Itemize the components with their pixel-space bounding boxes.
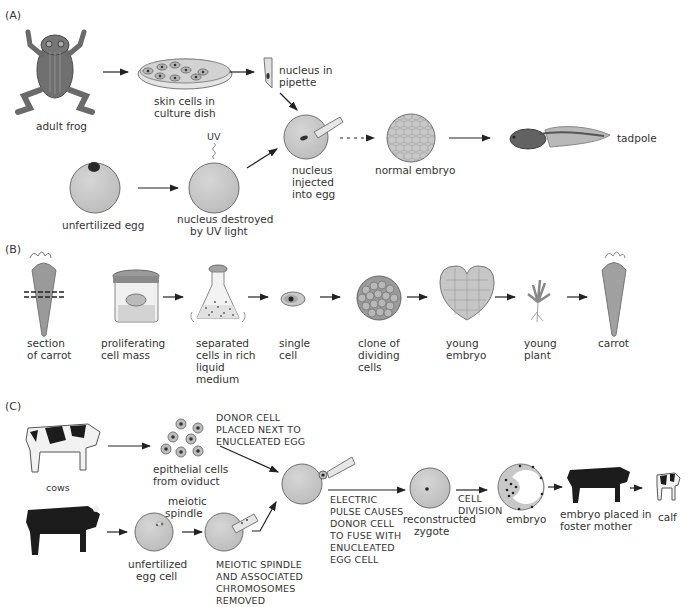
label-embryo: embryo [506, 513, 546, 526]
label-unfert-2: egg cell [136, 570, 177, 583]
label-foster-2: foster mother [560, 520, 632, 533]
single-cell-icon [281, 292, 305, 306]
label-uv: UV [207, 130, 220, 143]
label-removed-1: MEIOTIC SPINDLE [216, 559, 302, 571]
reconstructed-zygote-icon [410, 468, 450, 508]
label-electric-2: PULSE CAUSES [330, 506, 404, 518]
label-removed-3: CHROMOSOMES [216, 583, 295, 595]
label-young-plant-2: plant [524, 349, 551, 362]
young-embryo-icon [440, 266, 494, 320]
cell-clone-icon [357, 276, 401, 320]
label-donor-1: DONOR CELL [216, 412, 280, 424]
label-calf: calf [658, 511, 677, 524]
culture-dish-icon [138, 59, 232, 89]
label-electric-5: ENUCLEATED [330, 542, 395, 554]
label-recon-2: zygote [414, 525, 449, 538]
label-adult-frog: adult frog [36, 120, 87, 133]
label-cows: cows [46, 481, 70, 494]
label-single-2: cell [279, 349, 297, 362]
label-epithelial-2: from oviduct [153, 475, 220, 488]
label-normal-embryo: normal embryo [375, 164, 455, 177]
adult-frog-icon [18, 32, 92, 112]
unfertilized-egg-icon [70, 162, 120, 213]
label-section-2: of carrot [27, 349, 71, 362]
label-tadpole: tadpole [617, 132, 657, 145]
label-meiotic-2: spindle [165, 507, 203, 520]
epithelial-cells-icon [161, 419, 203, 457]
arrow [220, 446, 278, 472]
label-young-embryo-2: embryo [446, 349, 486, 362]
foster-mother-cow-icon [567, 467, 630, 503]
calf-icon [657, 473, 680, 500]
panel-label-c: (C) [5, 400, 21, 413]
label-nucleus-destroyed-2: by UV light [190, 225, 248, 238]
label-division-1: CELL [458, 493, 482, 505]
carrot-icon [602, 252, 626, 337]
label-electric-6: EGG CELL [330, 554, 379, 566]
label-unfertilized-egg: unfertilized egg [62, 219, 144, 232]
label-electric-4: TO FUSE WITH [330, 530, 401, 542]
label-separated-4: medium [196, 373, 239, 386]
label-clone-3: cells [358, 361, 382, 374]
pipette-icon [264, 58, 272, 88]
culture-jar-icon [113, 270, 159, 322]
label-electric-1: ELECTRIC [330, 494, 377, 506]
holstein-cow-icon [26, 424, 100, 472]
panel-label-b: (B) [5, 243, 21, 256]
label-division-2: DIVISION [458, 505, 502, 517]
label-skin-cells-2: culture dish [154, 107, 216, 120]
label-electric-3: DONOR CELL [330, 518, 394, 530]
enucleated-egg-icon [189, 163, 239, 213]
uv-wave-icon [213, 143, 216, 159]
young-plant-icon [528, 280, 550, 322]
arrow [280, 93, 297, 110]
label-donor-2: PLACED NEXT TO [216, 424, 301, 436]
enucleation-egg-icon [205, 513, 258, 551]
label-removed-2: AND ASSOCIATED [216, 571, 303, 583]
injected-egg-icon [284, 115, 343, 159]
label-carrot: carrot [598, 337, 629, 350]
label-nucleus-injected-3: into egg [292, 188, 335, 201]
carrot-section-icon [24, 252, 66, 337]
flask-icon [191, 265, 245, 322]
label-removed-4: REMOVED [216, 595, 265, 607]
blastocyst-embryo-icon [498, 464, 544, 510]
label-nucleus-pipette-2: pipette [279, 76, 316, 89]
label-prolif-2: cell mass [101, 349, 150, 362]
tadpole-icon [510, 127, 610, 149]
label-donor-3: ENUCLEATED EGG [216, 436, 305, 448]
normal-embryo-icon [387, 114, 435, 162]
arrow [247, 149, 277, 168]
black-cow-icon [26, 506, 100, 555]
panel-label-a: (A) [5, 9, 21, 22]
